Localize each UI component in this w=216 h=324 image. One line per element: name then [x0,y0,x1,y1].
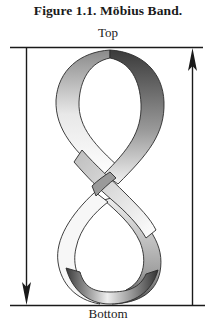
down-arrow-icon [22,48,31,305]
mobius-band [56,50,164,304]
bottom-label: Bottom [0,306,216,322]
up-arrow-icon [188,48,197,305]
mobius-band-figure [0,0,216,324]
